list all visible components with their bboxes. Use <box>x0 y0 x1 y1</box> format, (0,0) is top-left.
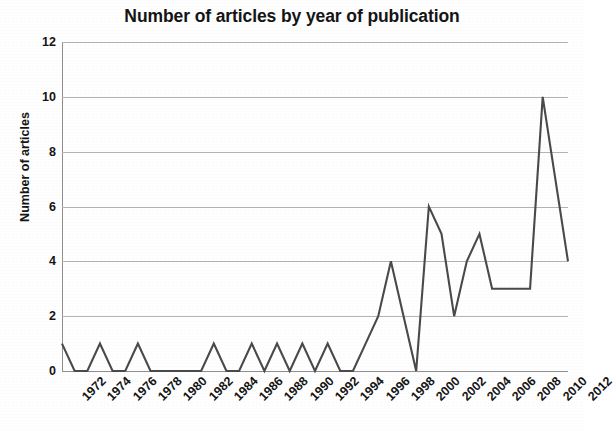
x-tick-label-1976: 1976 <box>130 374 160 404</box>
x-tick-label-2012: 2012 <box>585 374 615 404</box>
x-tick-label-1984: 1984 <box>231 374 261 404</box>
y-tick-label-4: 4 <box>49 254 56 268</box>
x-tick-label-2000: 2000 <box>433 374 463 404</box>
x-tick-label-2004: 2004 <box>484 374 514 404</box>
x-tick-label-2006: 2006 <box>509 374 539 404</box>
y-tick-label-8: 8 <box>49 145 56 159</box>
x-tick-label-1988: 1988 <box>282 374 312 404</box>
y-tick-label-0: 0 <box>49 364 56 378</box>
y-tick-label-6: 6 <box>49 200 56 214</box>
x-tick-label-1986: 1986 <box>256 374 286 404</box>
y-axis-title: Number of articles <box>18 102 32 232</box>
x-tick-label-1974: 1974 <box>104 374 134 404</box>
x-tick-label-2010: 2010 <box>560 374 590 404</box>
y-tick-label-10: 10 <box>42 90 56 104</box>
y-tick-label-2: 2 <box>49 309 56 323</box>
data-series-svg <box>62 42 568 371</box>
x-tick-label-2008: 2008 <box>535 374 565 404</box>
x-tick-label-1972: 1972 <box>79 374 109 404</box>
x-tick-label-2002: 2002 <box>459 374 489 404</box>
chart-title: Number of articles by year of publicatio… <box>0 6 584 27</box>
x-tick-label-1998: 1998 <box>408 374 438 404</box>
x-tick-label-1980: 1980 <box>180 374 210 404</box>
y-tick-label-12: 12 <box>42 35 56 49</box>
x-tick-label-1982: 1982 <box>206 374 236 404</box>
x-tick-label-1990: 1990 <box>307 374 337 404</box>
x-tick-label-1994: 1994 <box>357 374 387 404</box>
x-tick-label-1978: 1978 <box>155 374 185 404</box>
x-tick-label-1992: 1992 <box>332 374 362 404</box>
x-tick-labels-group: 1972197419761978198019821984198619881990… <box>62 374 568 430</box>
series-line-number-of-articles <box>62 97 568 371</box>
plot-area: 024681012 <box>62 42 568 371</box>
x-tick-label-1996: 1996 <box>383 374 413 404</box>
